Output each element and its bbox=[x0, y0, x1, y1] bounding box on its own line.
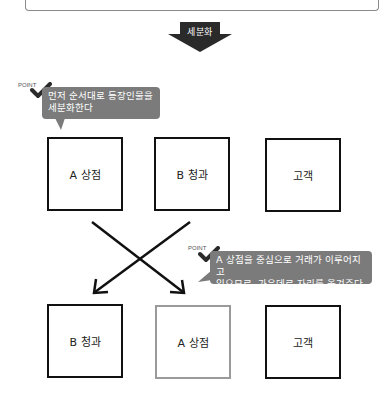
entity-label: 고객 bbox=[293, 334, 313, 350]
entity-label: A 상점 bbox=[177, 334, 208, 350]
callout-line: A 상점을 중심으로 거래가 이루어지고 bbox=[216, 254, 366, 278]
entity-box-a-store-highlighted: A 상점 bbox=[155, 305, 231, 379]
entity-label: B 청과 bbox=[69, 333, 100, 349]
callout-line: 있으므로, 가운데로 자리를 옮겨준다 bbox=[216, 278, 366, 290]
entity-box-b-produce: B 청과 bbox=[154, 137, 230, 211]
callout-tail bbox=[55, 118, 67, 130]
callout-bubble: A 상점을 중심으로 거래가 이루어지고 있으므로, 가운데로 자리를 옮겨준다 bbox=[210, 251, 372, 284]
entity-box-b-produce: B 청과 bbox=[47, 304, 123, 378]
entity-label: 고객 bbox=[293, 167, 313, 183]
callout-bubble: 먼저 순서대로 등장인물을 세분화한다 bbox=[42, 87, 160, 119]
arrow-label: 세분화 bbox=[176, 25, 224, 38]
entity-box-customer: 고객 bbox=[265, 305, 341, 379]
entity-label: B 청과 bbox=[176, 166, 207, 182]
entity-box-customer: 고객 bbox=[265, 138, 341, 212]
entity-label: A 상점 bbox=[69, 166, 100, 182]
callout-line: 먼저 순서대로 등장인물을 bbox=[48, 90, 154, 102]
entity-box-a-store: A 상점 bbox=[47, 137, 123, 211]
callout-line: 세분화한다 bbox=[48, 102, 154, 114]
top-frame bbox=[25, 0, 379, 11]
